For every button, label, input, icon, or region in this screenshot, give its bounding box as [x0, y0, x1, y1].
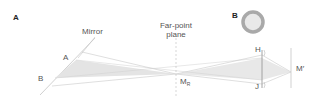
retinoscopy-diagram: A B Mirror A B Far-point plane MR H J M′: [0, 0, 312, 96]
mirror-leader: [78, 37, 95, 58]
far-point-label-line1: Far-point: [160, 21, 193, 30]
far-point-label-line2: plane: [166, 30, 186, 39]
m-prime-label: M′: [296, 64, 305, 73]
panel-label-b: B: [232, 11, 238, 20]
h-label: H: [255, 45, 261, 54]
point-a-label: A: [63, 53, 69, 62]
mirror-label: Mirror: [82, 27, 103, 36]
j-label: J: [255, 82, 259, 91]
m-r-label: MR: [180, 77, 191, 87]
panel-label-a: A: [13, 13, 19, 22]
lens-top-curve: [264, 50, 265, 56]
pupil-reflex-icon: [243, 12, 263, 32]
point-b-label: B: [38, 74, 43, 83]
